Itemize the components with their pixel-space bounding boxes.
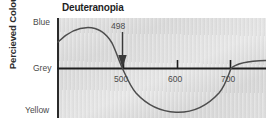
- chart-vector-layer: [0, 0, 266, 128]
- data-line-deuteranopia: [58, 28, 266, 113]
- chart-figure: Deuteranopia Percieved Colour Blue Grey …: [0, 0, 266, 128]
